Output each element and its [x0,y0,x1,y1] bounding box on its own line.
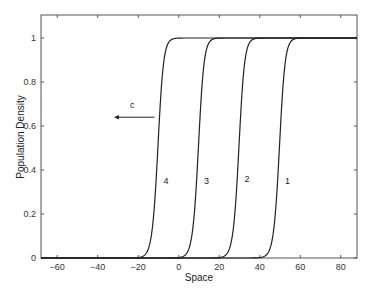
curve-label-3: 3 [204,176,209,186]
chart: −60−40−20020406080 00.20.40.60.81 1234 c… [0,0,371,289]
x-tick-label: −60 [50,262,65,272]
curve-label-1: 1 [285,176,290,186]
curve-2 [41,38,357,258]
y-tick-label: 1 [31,33,36,43]
density-curves [41,38,357,258]
y-axis-title: Population Density [15,95,26,178]
x-tick-label: 80 [336,262,346,272]
curve-3 [41,38,357,258]
curve-label-4: 4 [164,176,169,186]
x-tick-label: 60 [295,262,305,272]
x-tick-label: 40 [255,262,265,272]
y-tick-label: 0.2 [23,209,36,219]
x-axis-ticks: −60−40−20020406080 [50,15,346,272]
x-tick-label: −20 [131,262,146,272]
x-tick-label: 20 [214,262,224,272]
speed-label: c [130,100,135,110]
y-tick-label: 0.8 [23,77,36,87]
y-tick-label: 0 [31,253,36,263]
x-tick-label: 0 [176,262,181,272]
curve-labels: 1234 [164,174,291,186]
curve-4 [41,38,357,258]
arrow-left-icon [114,115,119,119]
y-axis-ticks: 00.20.40.60.81 [23,33,357,263]
x-tick-label: −40 [90,262,105,272]
curve-label-2: 2 [245,174,250,184]
annotations: c [114,100,155,119]
curve-1 [41,38,357,258]
x-axis-title: Space [185,272,214,283]
